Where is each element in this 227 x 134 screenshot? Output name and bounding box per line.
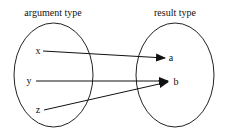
arrow-x-to-a [43,51,165,58]
codomain-element-b: b [174,76,179,87]
codomain-element-a: a [169,52,174,63]
domain-element-y: y [27,75,32,86]
domain-element-x: x [36,45,41,56]
function-mapping-diagram: argument type result type x y z a b [0,0,227,134]
arrow-z-to-b [44,82,168,110]
codomain-title: result type [154,7,196,18]
domain-title: argument type [24,7,82,18]
codomain-set-ellipse [136,23,214,127]
domain-element-z: z [36,104,41,115]
